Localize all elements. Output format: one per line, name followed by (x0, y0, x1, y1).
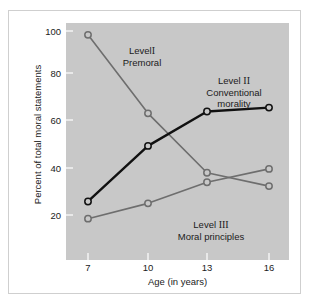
series-3 (85, 166, 272, 222)
annotation-level-2-line1: Level (218, 75, 241, 86)
annotation-level-2-line2: Conventional (206, 87, 261, 98)
annotation-level-2: Level II Conventional morality (206, 75, 261, 110)
data-point-marker (204, 179, 210, 185)
data-point-marker (145, 110, 151, 116)
annotation-level-2-line3: morality (217, 98, 250, 109)
y-tick-20: 20 (50, 210, 61, 221)
annotation-level-3-line1: Level (193, 219, 216, 230)
data-point-marker (85, 32, 91, 38)
series-1 (85, 32, 272, 190)
x-tick-10: 10 (143, 262, 154, 273)
chart-figure: 100 80 60 40 20 Percent of total moral s… (8, 10, 301, 294)
data-point-marker (266, 104, 272, 110)
annotation-level-2-numeral: II (243, 75, 250, 86)
x-tick-13: 13 (202, 262, 213, 273)
annotation-level-3-line2: Moral principles (178, 231, 245, 242)
y-tick-60: 60 (50, 115, 61, 126)
annotation-level-1: LevelI Premoral (123, 45, 162, 68)
x-tick-16: 16 (264, 262, 275, 273)
annotation-level-1-numeral: I (152, 45, 155, 56)
y-tick-80: 80 (50, 68, 61, 79)
data-series-layer (85, 32, 272, 222)
data-point-marker (266, 183, 272, 189)
y-tick-marks (66, 31, 73, 215)
y-tick-40: 40 (50, 163, 61, 174)
series-2 (85, 104, 272, 204)
data-point-marker (266, 166, 272, 172)
data-point-marker (145, 200, 151, 206)
data-point-marker (85, 198, 91, 204)
annotation-level-3-numeral: III (219, 219, 229, 230)
y-axis-title: Percent of total moral statements (32, 40, 43, 230)
plot-area: LevelI Premoral Level II Conventional mo… (66, 23, 289, 260)
x-axis-tick-labels: 7 10 13 16 (66, 261, 289, 277)
annotation-level-1-line2: Premoral (123, 57, 162, 68)
data-point-marker (85, 215, 91, 221)
annotation-level-1-line1: Level (129, 45, 152, 56)
annotation-level-3: Level III Moral principles (178, 219, 245, 242)
series-line (88, 108, 269, 202)
x-tick-7: 7 (85, 262, 90, 273)
x-axis-title: Age (in years) (66, 276, 289, 287)
x-tick-marks (88, 253, 269, 260)
data-point-marker (204, 170, 210, 176)
data-point-marker (145, 143, 151, 149)
y-tick-100: 100 (45, 26, 61, 37)
